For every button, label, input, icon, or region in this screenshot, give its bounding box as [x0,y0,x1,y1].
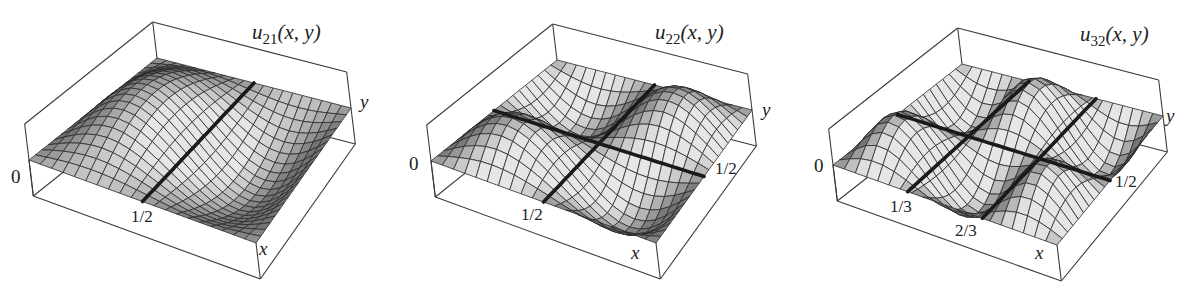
x-tick-label: 1/3 [890,198,912,215]
x-tick-label: 1/2 [131,208,153,225]
x-tick-label: 1/2 [521,206,543,223]
x-axis-label: x [631,243,639,262]
z-zero-label: 0 [409,154,419,173]
x-axis-label: x [1035,243,1043,262]
y-tick-label: 1/2 [1115,173,1137,190]
plot-title: u22(x, y) [655,22,724,47]
y-axis-label: y [360,92,368,111]
y-axis-label: y [1166,106,1174,125]
surface-plot-canvas [0,0,400,296]
plot-title: u21(x, y) [252,22,321,47]
plot-title: u32(x, y) [1080,24,1149,49]
surface-plot-u32: u32(x, y) y 0 1/3 2/3 1/2 x [790,0,1190,296]
surface-plot-canvas [400,0,800,296]
y-axis-label: y [762,100,770,119]
x-axis-label: x [259,239,267,258]
surface-plot-u22: u22(x, y) y 0 1/2 1/2 x [400,0,800,296]
surface-plot-u21: u21(x, y) y 0 1/2 x [0,0,400,296]
z-zero-label: 0 [11,167,21,186]
x-tick-label: 2/3 [955,222,977,239]
y-tick-label: 1/2 [715,160,737,177]
z-zero-label: 0 [814,156,824,175]
